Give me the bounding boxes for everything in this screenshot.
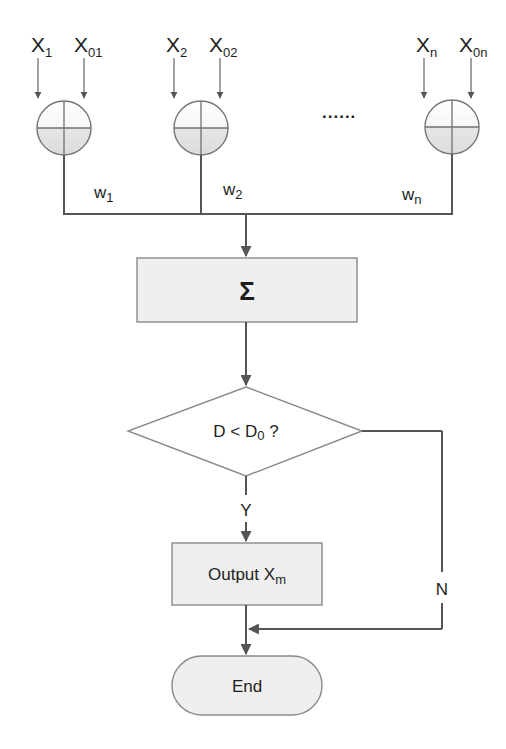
sum-symbol: Σ	[239, 276, 255, 306]
input-x02-label: X02	[209, 33, 237, 60]
input-group-1: X1 X01 w1	[31, 33, 114, 214]
end-label: End	[232, 677, 262, 696]
end-node: End	[172, 656, 322, 715]
weight-w1-label: w1	[93, 183, 114, 205]
input-xn-label: Xn	[416, 33, 437, 60]
sum-node: Σ	[137, 258, 357, 322]
comparator-node-2	[174, 101, 228, 155]
output-node: Output Xm	[172, 543, 322, 605]
output-label: Output Xm	[208, 565, 286, 587]
input-x01-label: X01	[74, 33, 102, 60]
flowchart-canvas: X1 X01 w1 X2 X02 w2 ...... Xn X0n	[0, 0, 506, 749]
no-label: N	[436, 580, 448, 599]
input-x1-label: X1	[31, 33, 52, 60]
decision-label: D < D0 ?	[213, 422, 278, 443]
decision-node: D < D0 ?	[128, 387, 362, 476]
weight-w2-label: w2	[222, 180, 243, 202]
comparator-node-n	[425, 100, 479, 154]
input-x2-label: X2	[166, 33, 187, 60]
weight-wn-label: wn	[401, 185, 422, 207]
input-x0n-label: X0n	[459, 33, 487, 60]
yes-label: Y	[240, 501, 251, 520]
ellipsis: ......	[322, 103, 356, 122]
input-group-2: X2 X02 w2	[166, 33, 243, 214]
comparator-node-1	[37, 101, 91, 155]
input-group-n: Xn X0n wn	[401, 33, 487, 214]
